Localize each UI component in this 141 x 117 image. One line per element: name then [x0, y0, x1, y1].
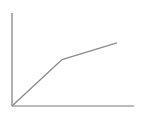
- chart-canvas: [0, 0, 141, 117]
- line-chart: [0, 0, 141, 117]
- data-line: [12, 43, 117, 106]
